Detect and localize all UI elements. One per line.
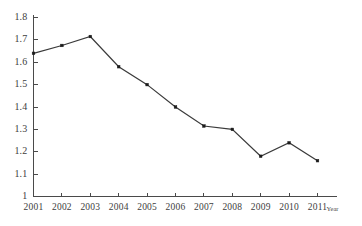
- x-axis-tick-label: 2003: [74, 202, 106, 212]
- x-axis-tick-label: 2002: [46, 202, 78, 212]
- data-point-marker: [61, 44, 64, 47]
- y-axis-tick-label: 1.8: [0, 12, 28, 22]
- data-point-marker: [146, 83, 149, 86]
- data-point-marker: [174, 106, 177, 109]
- data-point-marker: [288, 142, 291, 145]
- y-axis-tick-label: 1.5: [0, 79, 28, 89]
- line-chart: 1.81.71.61.51.41.31.21.11 20012002200320…: [0, 0, 362, 226]
- x-axis-tick-label: 2009: [245, 202, 277, 212]
- data-point-marker: [316, 159, 319, 162]
- data-point-marker: [259, 155, 262, 158]
- y-axis-tick-label: 1.6: [0, 57, 28, 67]
- chart-plot-area: [0, 0, 362, 226]
- data-series: [32, 35, 319, 162]
- y-axis-tick-label: 1.2: [0, 146, 28, 156]
- y-axis-tick-label: 1.1: [0, 169, 28, 179]
- y-axis-tick-label: 1.4: [0, 102, 28, 112]
- data-point-marker: [117, 65, 120, 68]
- y-axis-ticks: [34, 18, 38, 175]
- chart-axes: [34, 15, 337, 197]
- data-point-marker: [89, 35, 92, 38]
- series-line-path: [34, 37, 318, 161]
- x-axis-tick-label: 2001: [18, 202, 50, 212]
- x-axis-tick-label: 2005: [131, 202, 163, 212]
- data-point-marker: [231, 128, 234, 131]
- x-axis-title: Year: [327, 205, 339, 212]
- y-axis-tick-label: 1.3: [0, 124, 28, 134]
- series-markers: [32, 35, 319, 162]
- x-axis-tick-label: 2008: [216, 202, 248, 212]
- y-axis-tick-label: 1: [0, 191, 28, 201]
- x-axis-tick-label: 2006: [160, 202, 192, 212]
- x-axis-tick-label: 2010: [273, 202, 305, 212]
- x-axis-tick-label: 2007: [188, 202, 220, 212]
- x-axis-tick-label: 2004: [103, 202, 135, 212]
- data-point-marker: [32, 52, 35, 55]
- y-axis-tick-label: 1.7: [0, 34, 28, 44]
- data-point-marker: [203, 125, 206, 128]
